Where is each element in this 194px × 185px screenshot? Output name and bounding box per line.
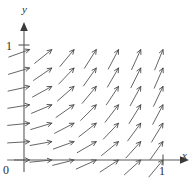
field-arrow-shaft [83, 68, 96, 86]
field-arrow-shaft [34, 68, 52, 80]
field-arrow-shaft [81, 105, 97, 121]
x-axis-label: x [182, 150, 187, 161]
origin-label: 0 [3, 164, 9, 176]
field-arrow-shaft [102, 142, 119, 156]
field-arrow-shaft [150, 142, 163, 160]
field-arrow-shaft [154, 86, 163, 106]
field-arrowhead [92, 50, 96, 55]
axes-group [14, 22, 189, 172]
field-arrow-shaft [55, 123, 75, 133]
field-arrowhead [114, 86, 118, 91]
field-arrow-shaft [33, 86, 52, 97]
field-arrowhead [113, 160, 118, 164]
field-arrow-shaft [85, 50, 97, 69]
field-arrow-shaft [32, 105, 52, 114]
field-arrow-shaft [103, 123, 118, 139]
field-arrow-shaft [130, 86, 141, 105]
field-arrow-shaft [155, 50, 163, 70]
field-arrow-shaft [59, 68, 74, 84]
field-arrow-shaft [79, 123, 96, 137]
field-arrow-shaft [128, 123, 141, 141]
field-arrow-shaft [108, 50, 118, 69]
x-axis-tick-label-one: 1 [159, 165, 165, 177]
field-arrow-shaft [105, 105, 118, 122]
field-arrow-shaft [126, 142, 141, 158]
field-arrow-shaft [124, 160, 140, 175]
y-axis-label: y [22, 4, 27, 15]
direction-field-plot [0, 0, 194, 185]
field-arrow-shaft [8, 105, 30, 108]
field-arrow-shaft [129, 105, 141, 124]
field-arrow-shaft [153, 105, 163, 124]
field-arrow-shaft [77, 142, 96, 153]
field-arrow-shaft [107, 68, 118, 87]
field-arrow-shaft [154, 68, 163, 88]
field-arrow-shaft [58, 86, 75, 101]
vector-field-arrow-group [8, 49, 164, 177]
field-arrow-shaft [8, 142, 30, 143]
field-arrow-shaft [76, 160, 96, 169]
field-arrow-shaft [60, 50, 74, 67]
field-arrow-shaft [131, 68, 141, 88]
field-arrow-shaft [82, 86, 96, 103]
field-arrow-shaft [100, 160, 118, 172]
field-arrow-shaft [35, 50, 52, 64]
y-axis-arrowhead [20, 22, 28, 31]
field-arrow-shaft [152, 123, 163, 142]
field-arrow-shaft [106, 86, 118, 104]
y-axis-tick-label-one: 1 [6, 40, 12, 52]
field-arrow-shaft [132, 50, 141, 70]
field-arrowhead [136, 105, 140, 110]
field-arrow-shaft [56, 105, 74, 118]
direction-field-figure: y x 0 1 1 [0, 0, 194, 185]
